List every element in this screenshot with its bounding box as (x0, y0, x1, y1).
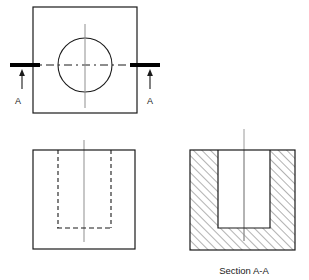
section-view-caption: Section A-A (219, 265, 269, 276)
section-marker-label-left: A (15, 96, 21, 106)
engineering-drawing-root: A A Section A- (0, 0, 309, 280)
drawing-canvas: A A Section A- (0, 0, 309, 280)
section-marker-label-right: A (147, 96, 153, 106)
